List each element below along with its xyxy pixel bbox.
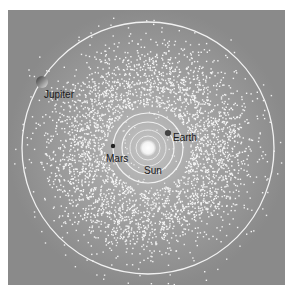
sun-label: Sun xyxy=(144,166,162,176)
diagram-canvas xyxy=(8,10,285,285)
sun-icon xyxy=(140,140,156,156)
earth-icon xyxy=(165,130,171,136)
solar-system-diagram: Jupiter Mars Sun Earth xyxy=(8,10,285,285)
mars-icon xyxy=(111,144,115,148)
jupiter-label: Jupiter xyxy=(44,90,74,100)
jupiter-icon xyxy=(36,76,48,88)
earth-label: Earth xyxy=(173,133,197,143)
mars-label: Mars xyxy=(106,154,128,164)
